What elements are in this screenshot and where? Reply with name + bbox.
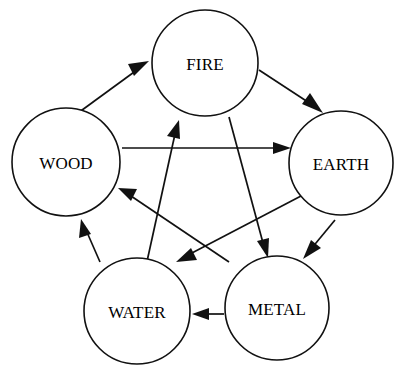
edge-earth-to-metal-arrowhead (303, 240, 321, 259)
edge-metal-to-water-arrowhead (192, 308, 209, 320)
edge-wood-to-earth-arrowhead (273, 142, 291, 154)
edge-wood-to-fire-line (78, 67, 141, 113)
edge-wood-to-fire (78, 61, 149, 113)
edge-metal-to-wood (118, 188, 229, 262)
node-earth[interactable]: EARTH (289, 111, 393, 215)
edge-earth-to-water-arrowhead (176, 248, 197, 262)
edge-metal-to-wood-line (131, 196, 229, 262)
edge-earth-to-water-line (190, 196, 301, 254)
node-wood[interactable]: WOOD (12, 108, 120, 216)
five-elements-diagram: FIRE EARTH METAL WATER WOOD (0, 0, 397, 374)
edge-metal-to-water (192, 308, 224, 320)
edge-fire-to-metal (229, 117, 269, 258)
edge-wood-to-earth (122, 142, 291, 154)
edge-water-to-fire (146, 120, 180, 266)
node-metal[interactable]: METAL (225, 256, 329, 360)
edge-fire-to-earth-arrowhead (302, 93, 323, 113)
edge-water-to-fire-line (146, 134, 175, 266)
node-fire[interactable]: FIRE (152, 10, 258, 116)
node-earth-label: EARTH (313, 155, 370, 174)
node-metal-label: METAL (248, 300, 306, 319)
edge-water-to-wood (79, 219, 100, 262)
edge-earth-to-metal (303, 220, 335, 259)
node-water[interactable]: WATER (84, 258, 190, 364)
edge-water-to-wood-arrowhead (79, 219, 91, 238)
edge-water-to-fire-arrowhead (167, 120, 180, 139)
edge-fire-to-earth (259, 70, 323, 113)
node-fire-label: FIRE (186, 55, 224, 74)
edge-earth-to-water (176, 196, 301, 262)
node-wood-label: WOOD (39, 154, 93, 173)
diagram-canvas: FIRE EARTH METAL WATER WOOD (0, 0, 397, 374)
edge-fire-to-metal-arrowhead (257, 238, 269, 258)
node-water-label: WATER (108, 303, 166, 322)
